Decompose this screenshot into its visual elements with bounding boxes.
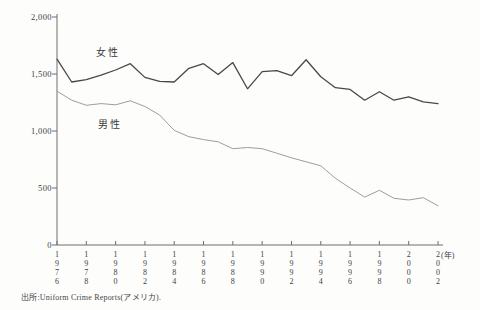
male-series-line bbox=[57, 91, 438, 206]
x-tick-label: 1 9 9 6 bbox=[345, 250, 355, 286]
x-tick-label: 1 9 8 0 bbox=[111, 250, 121, 286]
x-tick-label: 1 9 8 8 bbox=[228, 250, 238, 286]
x-tick-label: 1 9 7 8 bbox=[81, 250, 91, 286]
x-tick-label: 1 9 9 8 bbox=[374, 250, 384, 286]
source-note: 出所:Uniform Crime Reports(アメリカ). bbox=[21, 291, 161, 302]
x-tick-label: 1 9 9 4 bbox=[316, 250, 326, 286]
x-tick-label: 2 0 0 0 bbox=[404, 250, 414, 286]
y-tick-label: 2,000 bbox=[18, 12, 52, 22]
y-tick-label: 0 bbox=[18, 240, 52, 250]
x-tick-label: 1 9 8 2 bbox=[140, 250, 150, 286]
y-tick-label: 500 bbox=[18, 183, 52, 193]
x-tick-label: 1 9 7 6 bbox=[52, 250, 62, 286]
x-axis-unit-label: (年) bbox=[441, 249, 454, 260]
series-label-female: 女性 bbox=[96, 44, 119, 59]
x-tick-label: 1 9 9 0 bbox=[257, 250, 267, 286]
x-tick-label: 1 9 8 6 bbox=[199, 250, 209, 286]
series-label-male: 男性 bbox=[98, 116, 121, 131]
x-tick-label: 1 9 8 4 bbox=[169, 250, 179, 286]
y-tick-label: 1,000 bbox=[18, 126, 52, 136]
y-tick-label: 1,500 bbox=[18, 69, 52, 79]
line-chart-figure: 女性 男性 05001,0001,5002,000 1 9 7 61 9 7 8… bbox=[0, 0, 480, 310]
x-tick-label: 1 9 9 2 bbox=[286, 250, 296, 286]
female-series-line bbox=[57, 59, 438, 103]
